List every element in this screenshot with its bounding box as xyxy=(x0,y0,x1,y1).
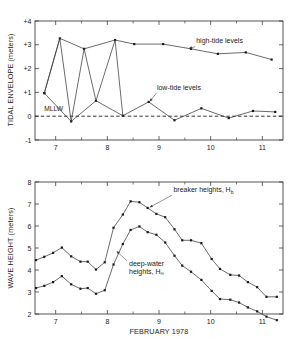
data-point-marker xyxy=(265,296,267,298)
data-point-marker xyxy=(122,213,124,215)
data-point-marker xyxy=(147,231,149,233)
data-point-marker xyxy=(129,200,131,202)
data-point-marker xyxy=(173,119,175,121)
data-point-marker xyxy=(247,306,249,308)
data-point-marker xyxy=(138,201,140,203)
data-point-marker xyxy=(162,43,164,45)
data-point-marker xyxy=(112,227,114,229)
data-point-marker xyxy=(79,288,81,290)
data-point-marker xyxy=(87,287,89,289)
data-point-marker xyxy=(219,268,221,270)
x-tick-label: 7 xyxy=(54,144,58,151)
data-point-marker xyxy=(173,255,175,257)
data-point-marker xyxy=(247,281,249,283)
panel-tidal-envelope: -10+1+2+3+47891011high-tide levelslow-ti… xyxy=(24,18,283,151)
data-point-marker xyxy=(148,101,150,103)
data-point-marker xyxy=(190,239,192,241)
data-point-marker xyxy=(52,281,54,283)
y-tick-label: 8 xyxy=(28,179,32,186)
x-tick-label: 9 xyxy=(157,144,161,151)
data-point-marker xyxy=(256,286,258,288)
data-point-marker xyxy=(256,310,258,312)
x-axis-title-date: FEBRUARY 1978 xyxy=(130,327,189,336)
data-point-marker xyxy=(265,316,267,318)
plot-frame xyxy=(35,182,283,314)
annotation-label: deep-water xyxy=(129,260,165,268)
annotation-label: high-tide levels xyxy=(196,37,243,45)
x-tick-label: 10 xyxy=(207,318,215,325)
annotation-label-line2: heights, H∞ xyxy=(129,268,165,277)
data-point-marker xyxy=(70,283,72,285)
data-point-marker xyxy=(138,225,140,227)
x-tick-label: 11 xyxy=(259,318,266,325)
data-point-marker xyxy=(200,279,202,281)
data-point-marker xyxy=(271,58,273,60)
data-point-marker xyxy=(129,229,131,231)
annotation-label: breaker heights, Hb xyxy=(173,186,233,195)
y-tick-label: +3 xyxy=(24,41,32,48)
data-point-marker xyxy=(252,110,254,112)
data-point-marker xyxy=(155,213,157,215)
data-point-marker xyxy=(238,274,240,276)
data-point-marker xyxy=(211,290,213,292)
x-tick-label: 11 xyxy=(259,144,266,151)
data-point-marker xyxy=(43,285,45,287)
data-point-marker xyxy=(181,265,183,267)
data-point-marker xyxy=(133,43,135,45)
annotation-subscript: b xyxy=(231,189,234,195)
data-point-marker xyxy=(200,242,202,244)
data-point-marker xyxy=(228,117,230,119)
data-point-marker xyxy=(104,261,106,263)
data-point-marker xyxy=(61,246,63,248)
y-tick-label: 0 xyxy=(28,113,32,120)
data-point-marker xyxy=(276,319,278,321)
x-tick-label: 7 xyxy=(54,318,58,325)
y-tick-label: -1 xyxy=(25,137,31,144)
data-point-marker xyxy=(181,239,183,241)
breaker-leader xyxy=(150,195,172,207)
y-axis-title-wave: WAVE HEIGHT (meters) xyxy=(6,207,15,288)
series-line-low-tide-levels xyxy=(44,93,275,121)
data-point-marker xyxy=(87,261,89,263)
y-tick-label: +2 xyxy=(24,65,32,72)
data-point-marker xyxy=(104,289,106,291)
x-tick-label: 10 xyxy=(207,144,215,151)
data-point-marker xyxy=(35,287,37,289)
panel-wave-height: 23456787891011breaker heights, Hbdeep-wa… xyxy=(28,179,283,325)
annotation-subscript: ∞ xyxy=(161,270,165,276)
data-point-marker xyxy=(245,51,247,53)
annotation-label: low-tide levels xyxy=(157,84,201,91)
data-point-marker xyxy=(200,107,202,109)
series-group xyxy=(43,37,276,122)
y-axis-title-tidal: TIDAL ENVELOPE (meters) xyxy=(6,33,15,126)
data-point-marker xyxy=(229,274,231,276)
data-point-marker xyxy=(155,234,157,236)
data-point-marker xyxy=(61,275,63,277)
data-point-marker xyxy=(274,111,276,113)
data-point-marker xyxy=(211,258,213,260)
figure-svg: -10+1+2+3+47891011high-tide levelslow-ti… xyxy=(0,0,290,350)
y-tick-label: 6 xyxy=(28,223,32,230)
data-point-marker xyxy=(164,241,166,243)
data-point-marker xyxy=(43,256,45,258)
y-tick-label: +1 xyxy=(24,89,32,96)
y-tick-label: 7 xyxy=(28,201,32,208)
data-point-marker xyxy=(217,53,219,55)
data-point-marker xyxy=(70,255,72,257)
data-point-marker xyxy=(147,207,149,209)
data-point-marker xyxy=(276,296,278,298)
y-tick-label: 3 xyxy=(28,289,32,296)
y-tick-label: 2 xyxy=(28,311,32,318)
series-line-breaker-heights-hb xyxy=(36,201,277,296)
data-point-marker xyxy=(164,216,166,218)
y-tick-label: 5 xyxy=(28,245,32,252)
y-tick-label: +4 xyxy=(24,18,32,25)
mllw-label: MLLW xyxy=(44,105,63,112)
data-point-marker xyxy=(219,298,221,300)
data-point-marker xyxy=(79,261,81,263)
data-point-marker xyxy=(95,293,97,295)
data-point-marker xyxy=(35,259,37,261)
data-point-marker xyxy=(229,299,231,301)
data-point-marker xyxy=(122,243,124,245)
x-tick-label: 8 xyxy=(105,144,109,151)
